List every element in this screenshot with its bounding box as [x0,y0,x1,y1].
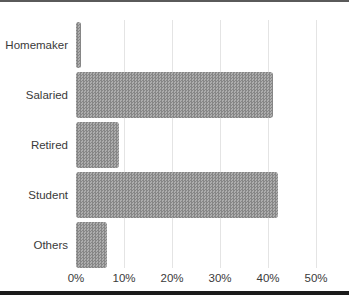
bar-series [76,20,340,270]
x-tick-label: 50% [304,272,327,284]
bar-row [76,120,340,170]
bar-homemaker [76,22,81,68]
bar-retired [76,122,119,168]
category-label: Others [0,220,70,270]
x-tick-label: 10% [112,272,135,284]
x-tick-label: 30% [208,272,231,284]
category-label: Retired [0,120,70,170]
category-label: Student [0,170,70,220]
category-label: Homemaker [0,20,70,70]
x-tick-label: 40% [256,272,279,284]
bar-chart-figure: Homemaker Salaried Retired Student Other… [0,0,349,304]
plot-area [76,20,340,270]
y-axis-category-labels: Homemaker Salaried Retired Student Other… [0,20,70,270]
bar-student [76,172,278,218]
x-tick-label: 20% [160,272,183,284]
bar-row [76,220,340,270]
x-tick-label: 0% [68,272,85,284]
bar-others [76,222,107,268]
top-divider-line [0,0,349,2]
bottom-divider-line [0,291,349,295]
bar-row [76,170,340,220]
bar-salaried [76,72,273,118]
bar-row [76,70,340,120]
x-axis: 0% 10% 20% 30% 40% 50% [0,272,349,288]
category-label: Salaried [0,70,70,120]
bar-row [76,20,340,70]
